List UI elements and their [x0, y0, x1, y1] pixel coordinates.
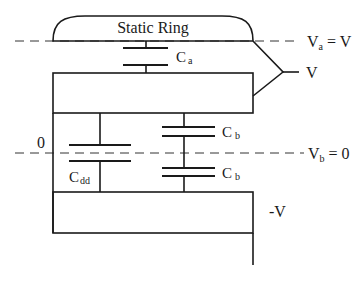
capacitance-diagram: Static Ring Ca V Va = V Cdd Cb Cb 0 Vb =…	[0, 0, 360, 281]
lower-electrode	[53, 192, 253, 233]
cdd-label: Cdd	[69, 169, 90, 186]
static-ring-label: Static Ring	[117, 19, 189, 37]
zero-label: 0	[37, 134, 45, 151]
diagram-canvas: Static Ring Ca V Va = V Cdd Cb Cb 0 Vb =…	[0, 0, 360, 281]
cb-lower-label: Cb	[222, 165, 240, 182]
ca-label: Ca	[176, 49, 193, 66]
vb-label: Vb = 0	[308, 145, 350, 164]
upper-electrode	[53, 73, 253, 113]
v-source-label: V	[306, 64, 318, 81]
va-label: Va = V	[307, 33, 352, 52]
v-source-bracket	[253, 41, 283, 96]
cb-upper-label: Cb	[222, 124, 240, 141]
neg-v-label: -V	[269, 203, 286, 220]
